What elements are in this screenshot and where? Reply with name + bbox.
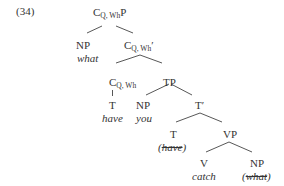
paren-close: ) (182, 141, 186, 153)
word-what: what (77, 52, 98, 64)
paren-close: ) (267, 170, 271, 182)
node-c-head: CQ, Wh (109, 76, 136, 92)
node-vp: VP (223, 128, 237, 140)
node-cp-sub: Q, Wh (100, 11, 120, 20)
word-have: have (102, 112, 123, 124)
node-obj-np: NP (250, 157, 264, 169)
example-number: (34) (16, 5, 34, 17)
word-have-struck: have (162, 141, 183, 153)
node-t-head: T (170, 128, 177, 140)
node-cbar: CQ, Wh′ (124, 39, 154, 55)
word-catch: catch (192, 170, 216, 182)
node-spec-np: NP (76, 39, 90, 51)
node-cp: CQ, WhP (93, 6, 126, 22)
node-t-in-c: T (109, 99, 116, 111)
word-what-struck: what (246, 170, 267, 182)
word-you: you (136, 112, 152, 124)
node-tp: TP (163, 76, 176, 88)
trace-have: (have) (158, 141, 186, 153)
node-subj-np: NP (136, 99, 150, 111)
node-cbar-suffix: ′ (151, 39, 153, 51)
node-tbar: T′ (195, 99, 204, 111)
node-cp-suffix: P (120, 6, 126, 18)
node-v: V (200, 157, 208, 169)
tree-branches (0, 0, 284, 186)
node-c-head-sub: Q, Wh (116, 81, 136, 90)
trace-what: (what) (242, 170, 271, 182)
node-cbar-sub: Q, Wh (131, 44, 151, 53)
